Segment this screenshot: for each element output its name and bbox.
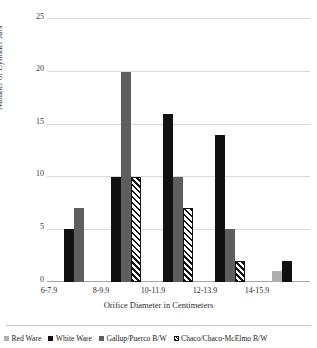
bar-group-6-7.9 [49, 18, 99, 282]
x-tick-0: 6-7.9 [19, 286, 79, 295]
bar-10-11.9-chaco-chaco-mcelmo-b-w [183, 208, 193, 282]
bar-12-13.9-white-ware [215, 135, 225, 282]
plot-area [47, 18, 310, 282]
legend-item-chaco-chaco-mcelmo-b-w[interactable]: Chaco/Chaco-McElmo B/W [174, 334, 268, 343]
bar-group-12-13.9 [205, 18, 255, 282]
bar-8-9.9-gallup-puerco-b-w [121, 72, 131, 282]
chart-legend: Red WareWhite WareGallup/Puerco B/WChaco… [4, 334, 315, 343]
x-tick-4: 14-15.9 [227, 286, 287, 295]
legend-swatch-icon [48, 336, 53, 341]
bar-6-7.9-gallup-puerco-b-w [74, 208, 84, 282]
bar-10-11.9-gallup-puerco-b-w [173, 177, 183, 282]
bar-group-8-9.9 [101, 18, 151, 282]
legend-swatch-icon [99, 336, 104, 341]
y-tick-5: 5 [4, 223, 44, 231]
bar-10-11.9-white-ware [163, 114, 173, 282]
legend-swatch-icon [4, 336, 9, 341]
bar-6-7.9-white-ware [64, 229, 74, 282]
x-axis-label: Orifice Diameter in Centimeters [0, 300, 317, 310]
y-tick-15: 15 [4, 118, 44, 126]
y-tick-20: 20 [4, 65, 44, 73]
bar-12-13.9-chaco-chaco-mcelmo-b-w [235, 261, 245, 282]
legend-swatch-icon [174, 336, 179, 341]
y-tick-0: 0 [4, 276, 44, 284]
y-tick-25: 25 [4, 13, 44, 21]
bar-chart-figure: Number of Cylinder Jars 0 5 10 15 20 25 … [0, 0, 317, 348]
y-tick-10: 10 [4, 170, 44, 178]
legend-item-label: Chaco/Chaco-McElmo B/W [181, 334, 267, 343]
bar-12-13.9-gallup-puerco-b-w [225, 229, 235, 282]
legend-item-label: Red Ware [12, 334, 42, 343]
legend-item-white-ware[interactable]: White Ware [48, 334, 92, 343]
bar-8-9.9-chaco-chaco-mcelmo-b-w [131, 177, 141, 282]
x-tick-2: 10-11.9 [123, 286, 183, 295]
legend-separator [6, 325, 311, 326]
legend-item-red-ware[interactable]: Red Ware [4, 334, 41, 343]
bar-group-10-11.9 [153, 18, 203, 282]
bar-8-9.9-white-ware [111, 177, 121, 282]
bar-group-14-15.9 [257, 18, 307, 282]
y-axis-ticks: 0 5 10 15 20 25 [0, 18, 44, 282]
legend-item-gallup-puerco-b-w[interactable]: Gallup/Puerco B/W [99, 334, 167, 343]
bar-14-15.9-red-ware [272, 271, 282, 282]
legend-item-label: White Ware [56, 334, 92, 343]
bar-14-15.9-white-ware [282, 261, 292, 282]
legend-item-label: Gallup/Puerco B/W [106, 334, 166, 343]
x-tick-3: 12-13.9 [175, 286, 235, 295]
x-tick-1: 8-9.9 [71, 286, 131, 295]
